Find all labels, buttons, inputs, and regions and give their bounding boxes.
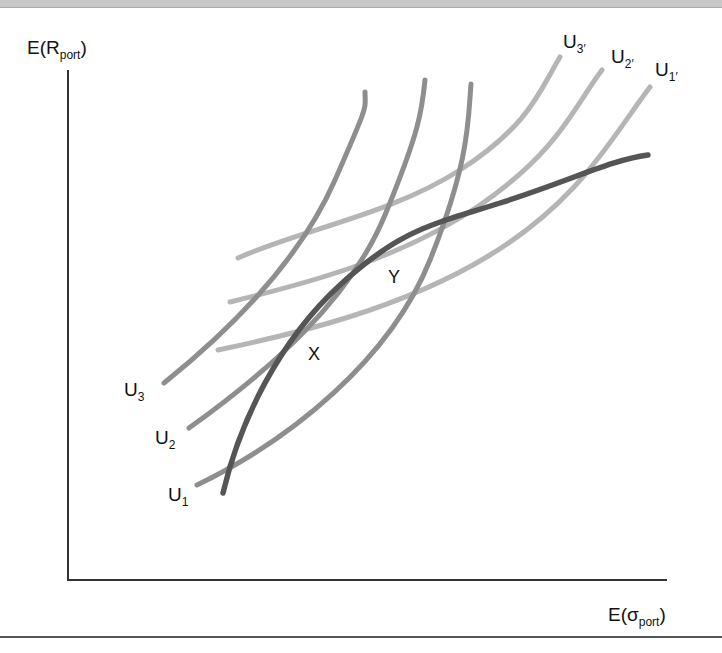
bottom-rule — [0, 636, 722, 638]
y-axis-label: E(Rport) — [27, 38, 87, 57]
point-x-label: X — [308, 345, 320, 363]
label-u3: U3 — [124, 380, 144, 399]
label-u1: U1 — [168, 485, 188, 504]
x-axis-label: E(σport) — [608, 605, 666, 624]
efficient-frontier — [223, 155, 648, 493]
curve-u3-prime — [238, 57, 560, 258]
label-u1-prime: U1′ — [655, 60, 678, 79]
diagram-canvas — [0, 0, 722, 653]
label-u2-prime: U2′ — [611, 47, 634, 66]
curve-u1-prime — [218, 87, 650, 350]
label-u3-prime: U3′ — [563, 32, 586, 51]
label-u2: U2 — [155, 428, 175, 447]
point-y-label: Y — [388, 268, 400, 286]
